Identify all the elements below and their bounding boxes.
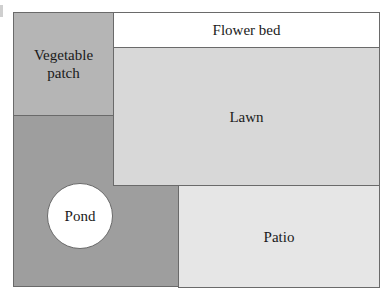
lawn-label: Lawn — [229, 108, 263, 126]
patio-region: Patio — [178, 185, 380, 288]
edge-artifact — [0, 5, 3, 17]
flower-bed-label: Flower bed — [213, 21, 281, 39]
pond-region: Pond — [47, 183, 113, 249]
patio-label: Patio — [264, 228, 295, 246]
garden-plan: Vegetable patch Flower bed Lawn Patio Po… — [13, 12, 379, 287]
pond-label: Pond — [65, 208, 96, 225]
flower-bed-region: Flower bed — [113, 12, 380, 48]
vegetable-patch-region: Vegetable patch — [13, 12, 114, 116]
vegetable-patch-label: Vegetable patch — [34, 46, 93, 82]
lawn-region: Lawn — [113, 47, 380, 186]
